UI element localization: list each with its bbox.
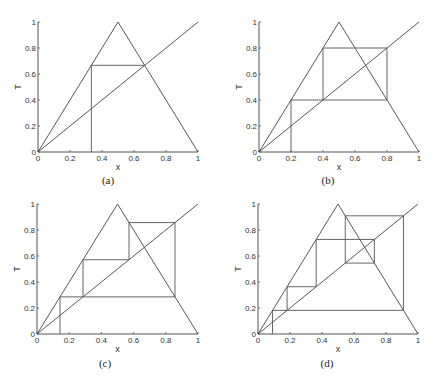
y-tick-label: 0.4 [25, 96, 37, 105]
caption-b: (b) [308, 174, 348, 186]
y-tick-label: 0.8 [25, 44, 37, 53]
y-tick-label: 1 [32, 18, 37, 27]
y-axis-label: T [234, 84, 244, 90]
panel-a: 00.20.40.60.8100.20.40.60.81xT (a) [0, 0, 219, 193]
cobweb-figure: 00.20.40.60.8100.20.40.60.81xT (a) 00.20… [0, 0, 438, 387]
x-tick-label: 0.6 [128, 154, 140, 163]
diagonal-line [258, 204, 418, 334]
y-tick-label: 0.8 [246, 44, 258, 53]
y-tick-label: 1 [253, 18, 258, 27]
x-tick-label: 0.2 [284, 336, 296, 345]
x-tick-label: 0.2 [64, 336, 76, 345]
y-tick-label: 0.2 [245, 304, 257, 313]
cobweb-orbit [291, 48, 387, 152]
y-tick-label: 1 [31, 200, 36, 209]
y-tick-label: 0 [253, 148, 258, 157]
plot-a: 00.20.40.60.8100.20.40.60.81xT [0, 0, 219, 193]
y-tick-label: 0.8 [24, 226, 36, 235]
y-tick-label: 0.6 [245, 252, 257, 261]
cobweb-orbit [60, 223, 175, 334]
diagonal-line [37, 204, 198, 334]
x-tick-label: 0.4 [317, 154, 329, 163]
panel-c: 00.20.40.60.8100.20.40.60.81xT (c) [0, 193, 219, 386]
x-axis-label: x [115, 344, 120, 354]
diagonal-line [259, 22, 419, 152]
plot-b: 00.20.40.60.8100.20.40.60.81xT [219, 0, 438, 193]
y-tick-label: 0.6 [246, 70, 258, 79]
x-tick-label: 0.8 [381, 154, 393, 163]
y-tick-label: 0.6 [25, 70, 37, 79]
x-tick-label: 0.6 [128, 336, 140, 345]
y-tick-label: 0.4 [246, 96, 258, 105]
x-tick-label: 0.2 [285, 154, 297, 163]
x-tick-label: 0.8 [160, 336, 172, 345]
x-tick-label: 0 [257, 154, 262, 163]
x-tick-label: 0.4 [316, 336, 328, 345]
x-tick-label: 1 [196, 336, 201, 345]
x-tick-label: 0.8 [380, 336, 392, 345]
panel-b: 00.20.40.60.8100.20.40.60.81xT (b) [219, 0, 438, 193]
caption-a: (a) [88, 174, 128, 186]
diagonal-line [38, 22, 198, 152]
x-tick-label: 0 [256, 336, 261, 345]
y-tick-label: 0 [252, 330, 257, 339]
x-tick-label: 0.6 [348, 336, 360, 345]
cobweb-orbit [273, 216, 404, 334]
y-axis-label: T [13, 84, 23, 90]
x-tick-label: 1 [416, 336, 421, 345]
x-tick-label: 0.8 [160, 154, 172, 163]
x-tick-label: 0.6 [349, 154, 361, 163]
y-tick-label: 0.8 [245, 226, 257, 235]
y-tick-label: 0.4 [245, 278, 257, 287]
y-tick-label: 0.4 [24, 278, 36, 287]
x-tick-label: 0.4 [96, 154, 108, 163]
x-axis-label: x [337, 162, 342, 172]
y-tick-label: 0.6 [24, 252, 36, 261]
cobweb-orbit [91, 65, 144, 152]
y-tick-label: 0 [31, 330, 36, 339]
x-tick-label: 0.4 [96, 336, 108, 345]
y-axis-label: T [233, 266, 243, 272]
x-axis-label: x [116, 162, 121, 172]
x-tick-label: 0 [36, 154, 41, 163]
x-tick-label: 0.2 [64, 154, 76, 163]
panel-d: 00.20.40.60.8100.20.40.60.81xT (d) [219, 193, 438, 386]
x-tick-label: 1 [196, 154, 201, 163]
y-tick-label: 1 [252, 200, 257, 209]
caption-c: (c) [85, 357, 125, 369]
y-tick-label: 0.2 [24, 304, 36, 313]
y-tick-label: 0 [32, 148, 37, 157]
x-tick-label: 1 [417, 154, 422, 163]
y-axis-label: T [12, 266, 22, 272]
caption-d: (d) [307, 357, 347, 369]
y-tick-label: 0.2 [246, 122, 258, 131]
x-tick-label: 0 [35, 336, 40, 345]
x-axis-label: x [336, 344, 341, 354]
y-tick-label: 0.2 [25, 122, 37, 131]
